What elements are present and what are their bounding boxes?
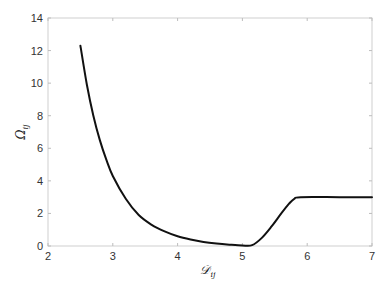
x-tick-label: 7 [369,250,375,262]
y-tick-label: 14 [31,12,43,24]
y-tick-label: 4 [37,175,43,187]
y-axis-label: Ωij [14,124,30,141]
x-tick-label: 5 [239,250,245,262]
x-tick-label: 2 [45,250,51,262]
x-tick-label: 3 [110,250,116,262]
y-tick-label: 10 [31,77,43,89]
x-axis-label: 𝒟ij [200,263,216,279]
y-tick-label: 0 [37,240,43,252]
line-chart: 234567 02468101214 𝒟ij Ωij [0,0,391,286]
y-tick-label: 8 [37,110,43,122]
y-tick-labels: 02468101214 [31,12,43,252]
data-line [80,46,372,246]
y-tick-label: 12 [31,45,43,57]
x-tick-label: 6 [304,250,310,262]
y-tick-label: 2 [37,207,43,219]
x-tick-label: 4 [175,250,181,262]
y-tick-label: 6 [37,142,43,154]
x-tick-labels: 234567 [45,250,375,262]
